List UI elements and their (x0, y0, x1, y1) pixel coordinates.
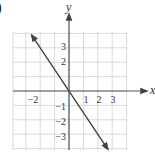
plotted-line (32, 35, 108, 149)
coordinate-graph: x y −2 1 2 3 3 2 −1 −2 −3 (0, 0, 155, 153)
y-tick-label: −3 (55, 131, 66, 142)
y-tick-label: 3 (61, 41, 66, 52)
y-tick-label: −2 (55, 116, 66, 127)
x-axis-label: x (149, 83, 155, 97)
x-tick-label: 3 (111, 94, 116, 105)
x-tick-label: 2 (97, 94, 102, 105)
x-tick-label: 1 (84, 94, 89, 105)
y-tick-label: −1 (55, 101, 66, 112)
y-tick-label: 2 (61, 56, 66, 67)
x-tick-label: −2 (28, 94, 39, 105)
y-axis-label: y (65, 0, 72, 14)
